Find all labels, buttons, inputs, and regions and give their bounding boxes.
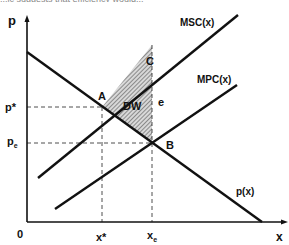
p-e-main: p xyxy=(7,135,14,147)
point-e-label: e xyxy=(158,97,164,108)
point-c-label: C xyxy=(146,56,154,67)
deadweight-loss-region xyxy=(102,45,152,143)
y-axis-arrow-icon xyxy=(25,15,30,22)
p-e-tick-label: pe xyxy=(7,136,18,151)
y-axis-label: p xyxy=(8,15,16,26)
demand-label: p(x) xyxy=(236,186,254,197)
deadweight-label: DW xyxy=(123,101,141,112)
msc-label: MSC(x) xyxy=(180,17,214,28)
x-axis-label: x xyxy=(276,232,283,243)
x-e-tick-label: xe xyxy=(147,230,157,245)
externality-diagram xyxy=(0,0,289,245)
origin-label: 0 xyxy=(17,229,23,240)
x-star-tick-label: x* xyxy=(96,232,106,243)
p-e-subscript: e xyxy=(14,142,18,149)
point-a-label: A xyxy=(98,91,106,102)
x-e-subscript: e xyxy=(153,236,157,243)
p-star-tick-label: p* xyxy=(5,102,16,113)
point-b-label: B xyxy=(166,140,174,151)
mpc-label: MPC(x) xyxy=(197,74,231,85)
x-axis-arrow-icon xyxy=(281,220,288,225)
